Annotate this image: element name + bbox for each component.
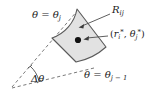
label-region-rij-subscript: ij — [120, 9, 124, 17]
label-sample-point-close-paren: ) — [141, 28, 145, 39]
label-sample-point: (ri*, θj*) — [110, 29, 145, 39]
region-label-leader-line — [82, 14, 110, 26]
dashed-ray-theta-j-minus-1 — [12, 68, 94, 88]
label-theta-j-subscript: j — [59, 14, 61, 22]
label-theta-equals-theta-j: θ = θj — [32, 10, 61, 20]
label-region-rij: Rij — [112, 5, 124, 15]
polar-region-figure: θ = θj Rij (ri*, θj*) θ = θj − 1 Δθ — [0, 0, 153, 102]
label-region-rij-text: R — [112, 4, 120, 15]
label-theta-j-text: θ = θ — [32, 9, 59, 20]
sample-point-dot — [75, 37, 81, 43]
label-theta-j-minus-1-subscript: j − 1 — [111, 74, 127, 82]
label-theta-j-minus-1-text: θ = θ — [84, 69, 111, 80]
figure-canvas — [0, 0, 153, 102]
label-delta-theta: Δθ — [31, 74, 44, 84]
label-theta-equals-theta-j-minus-1: θ = θj − 1 — [84, 70, 127, 80]
